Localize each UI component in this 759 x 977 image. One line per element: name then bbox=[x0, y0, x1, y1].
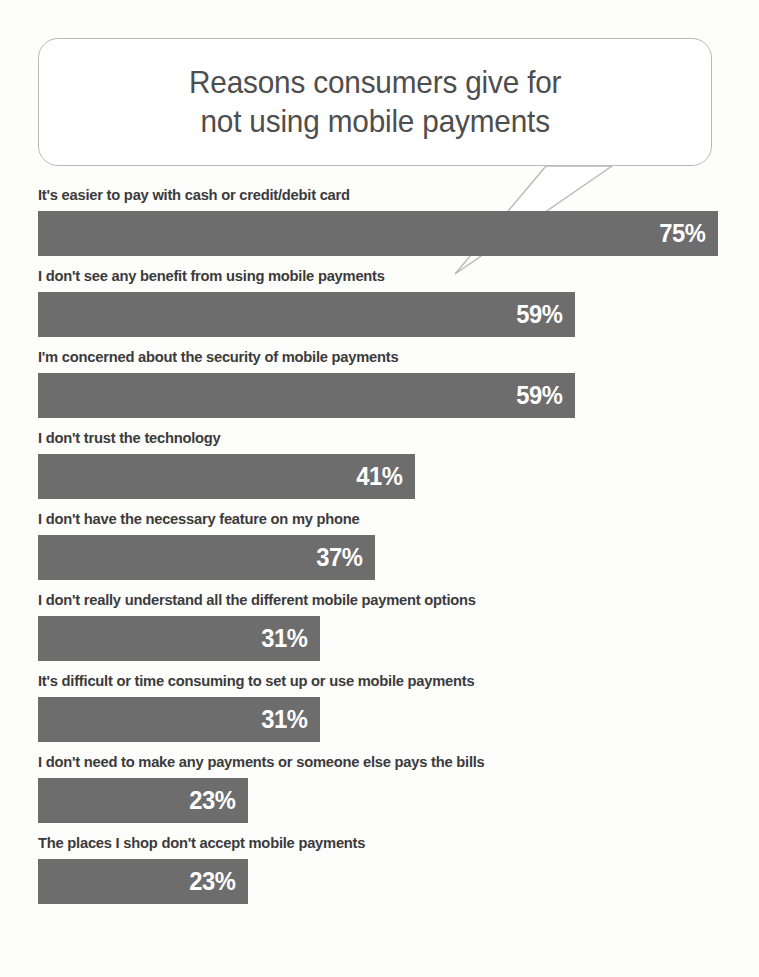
bar-value-label: 31% bbox=[262, 626, 308, 651]
bar-value-label: 59% bbox=[517, 302, 563, 327]
chart-row: It's difficult or time consuming to set … bbox=[0, 670, 759, 742]
chart-row: The places I shop don't accept mobile pa… bbox=[0, 832, 759, 904]
bar-value-label: 41% bbox=[357, 464, 403, 489]
bar-value-label: 23% bbox=[190, 869, 236, 894]
bar: 31% bbox=[38, 616, 320, 661]
bar-track: 59% bbox=[38, 373, 759, 418]
chart-row: It's easier to pay with cash or credit/d… bbox=[0, 184, 759, 256]
bar-track: 23% bbox=[38, 778, 759, 823]
bar-value-label: 37% bbox=[317, 545, 363, 570]
bar-track: 31% bbox=[38, 697, 759, 742]
bar-category-label: I'm concerned about the security of mobi… bbox=[38, 346, 723, 368]
bar: 31% bbox=[38, 697, 320, 742]
chart-row: I don't trust the technology 41% bbox=[0, 427, 759, 499]
bar-category-label: I don't really understand all the differ… bbox=[38, 589, 723, 611]
bar: 59% bbox=[38, 373, 575, 418]
bar-value-label: 31% bbox=[262, 707, 308, 732]
bar-value-label: 75% bbox=[660, 221, 706, 246]
bar-category-label: It's easier to pay with cash or credit/d… bbox=[38, 184, 723, 206]
title-callout-bubble: Reasons consumers give for not using mob… bbox=[38, 38, 712, 166]
bar-value-label: 59% bbox=[517, 383, 563, 408]
bar-category-label: I don't trust the technology bbox=[38, 427, 723, 449]
chart-row: I don't see any benefit from using mobil… bbox=[0, 265, 759, 337]
bar: 37% bbox=[38, 535, 375, 580]
bar-track: 31% bbox=[38, 616, 759, 661]
bar-track: 37% bbox=[38, 535, 759, 580]
bar-category-label: The places I shop don't accept mobile pa… bbox=[38, 832, 723, 854]
bar: 59% bbox=[38, 292, 575, 337]
bar-track: 59% bbox=[38, 292, 759, 337]
bar: 41% bbox=[38, 454, 415, 499]
bar-category-label: I don't have the necessary feature on my… bbox=[38, 508, 723, 530]
bar-category-label: I don't see any benefit from using mobil… bbox=[38, 265, 723, 287]
bar: 23% bbox=[38, 859, 248, 904]
chart-row: I'm concerned about the security of mobi… bbox=[0, 346, 759, 418]
chart-row: I don't have the necessary feature on my… bbox=[0, 508, 759, 580]
bar-track: 75% bbox=[38, 211, 759, 256]
bar-category-label: I don't need to make any payments or som… bbox=[38, 751, 723, 773]
page-title: Reasons consumers give for not using mob… bbox=[189, 63, 561, 141]
bar-chart: It's easier to pay with cash or credit/d… bbox=[0, 184, 759, 913]
bar-category-label: It's difficult or time consuming to set … bbox=[38, 670, 723, 692]
bar-track: 41% bbox=[38, 454, 759, 499]
chart-row: I don't really understand all the differ… bbox=[0, 589, 759, 661]
bar-track: 23% bbox=[38, 859, 759, 904]
chart-row: I don't need to make any payments or som… bbox=[0, 751, 759, 823]
chart-page: Reasons consumers give for not using mob… bbox=[0, 0, 759, 977]
bar: 75% bbox=[38, 211, 718, 256]
bar-value-label: 23% bbox=[190, 788, 236, 813]
bar: 23% bbox=[38, 778, 248, 823]
